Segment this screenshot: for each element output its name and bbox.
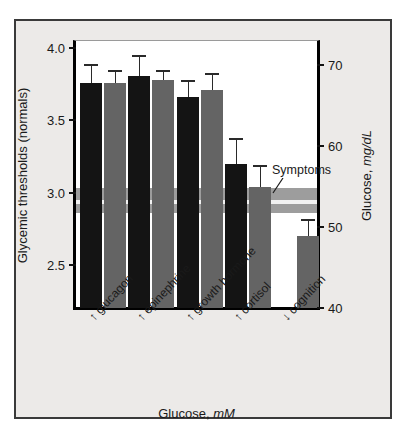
y-tick-right-3 [317,307,324,309]
y-tick-label-left-2: 3.0 [47,185,65,200]
error-bar-stem-series-gray-3 [260,165,261,187]
symptoms-annotation-label: Symptoms [272,163,331,177]
bar-series-dark-3 [225,164,247,308]
error-bar-cap-series-gray-4 [301,219,315,221]
y-tick-right-1 [317,145,324,147]
symptoms-leader-line [271,178,301,208]
error-bar-stem-series-dark-0 [91,64,92,83]
error-bar-cap-series-dark-0 [84,64,98,66]
error-bar-stem-series-gray-2 [212,73,213,90]
y-tick-left-3 [69,264,76,266]
y-tick-left-1 [69,119,76,121]
error-bar-cap-series-dark-3 [229,138,243,140]
bar-series-dark-0 [80,83,102,308]
error-bar-stem-series-gray-4 [308,219,309,236]
y-tick-label-right-1: 60 [328,139,342,154]
y-axis-title-left-text: Glycemic thresholds (normals) [16,87,31,263]
y-tick-left-2 [69,192,76,194]
figure-container: Glycemic thresholds (normals) Glucose, m… [0,0,406,437]
error-bar-stem-series-dark-3 [236,138,237,164]
y-axis-title-right-text: Glucose, mg/dL [360,129,375,220]
error-bar-cap-series-gray-2 [205,73,219,75]
error-bar-stem-series-dark-1 [139,55,140,75]
y-tick-right-2 [317,226,324,228]
error-bar-cap-series-gray-1 [156,70,170,72]
y-tick-label-right-2: 50 [328,220,342,235]
y-tick-label-left-0: 4.0 [47,41,65,56]
error-bar-cap-series-gray-3 [253,165,267,167]
y-tick-label-right-0: 70 [328,58,342,73]
error-bar-stem-series-dark-2 [188,80,189,97]
x-axis-title: Glucose, mM [73,406,320,421]
y-tick-label-left-3: 2.5 [47,257,65,272]
y-tick-left-0 [69,47,76,49]
bar-series-dark-1 [128,76,150,308]
y-axis-title-left: Glycemic thresholds (normals) [14,40,32,310]
error-bar-cap-series-dark-2 [181,80,195,82]
error-bar-cap-series-dark-1 [132,55,146,57]
y-axis-title-right: Glucose, mg/dL [358,40,376,310]
y-tick-label-right-3: 40 [328,301,342,316]
error-bar-cap-series-gray-0 [108,70,122,72]
y-tick-right-0 [317,64,324,66]
y-tick-label-left-1: 3.5 [47,113,65,128]
